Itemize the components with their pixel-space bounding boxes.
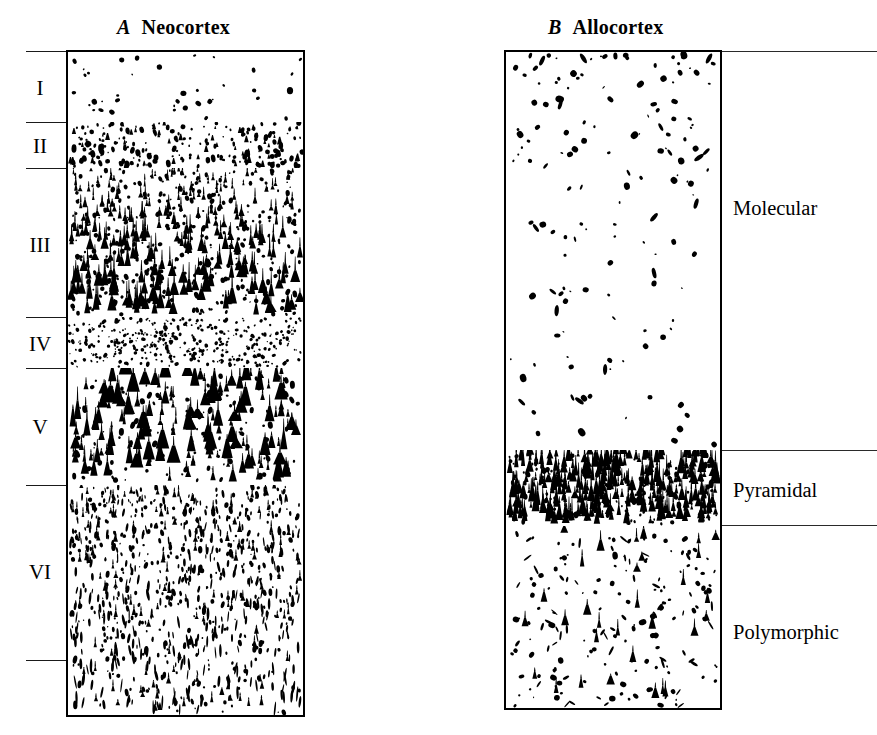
tick-line-a-top [26, 51, 68, 52]
panel-b-title-text: Allocortex [573, 16, 664, 38]
layer-label-vi: VI [20, 562, 60, 583]
cell-layer-molecular [506, 52, 720, 450]
tick-line-a-bottom [26, 660, 68, 661]
layer-label-i: I [20, 78, 60, 99]
cell-layer-pyramidal [506, 450, 720, 526]
region-label-molecular: Molecular [733, 198, 817, 219]
cell-layer-polymorphic [506, 526, 720, 708]
panel-b-letter: B [548, 16, 562, 38]
panel-b-title: BAllocortex [548, 16, 663, 39]
tick-line-a-ii-iii [26, 168, 68, 169]
region-label-pyramidal: Pyramidal [733, 480, 817, 501]
cell-layer-i [68, 52, 303, 122]
region-label-polymorphic: Polymorphic [733, 622, 839, 643]
layer-label-iv: IV [20, 334, 60, 355]
tick-line-b-mol-pyr [722, 450, 877, 451]
cell-layer-v [68, 368, 303, 485]
tick-line-a-i-ii [26, 122, 68, 123]
tick-line-a-iv-v [26, 368, 68, 369]
cell-layer-vi [68, 485, 303, 715]
panel-a-title: ANeocortex [117, 16, 230, 39]
neocortex-column [66, 50, 305, 717]
layer-label-ii: II [20, 136, 60, 157]
cell-layer-ii [68, 122, 303, 168]
cell-layer-iv [68, 317, 303, 368]
cortical-layers-figure: ANeocortex I II III IV V VI BAllocortex … [0, 0, 877, 735]
layer-label-iii: III [20, 235, 60, 256]
panel-a-title-text: Neocortex [142, 16, 230, 38]
cell-layer-iii [68, 168, 303, 317]
tick-line-a-iii-iv [26, 317, 68, 318]
tick-line-b-pyr-poly [722, 525, 877, 526]
allocortex-column [504, 50, 722, 710]
tick-line-a-v-vi [26, 485, 68, 486]
layer-label-v: V [20, 417, 60, 438]
tick-line-b-top [722, 51, 877, 52]
panel-a-letter: A [117, 16, 131, 38]
